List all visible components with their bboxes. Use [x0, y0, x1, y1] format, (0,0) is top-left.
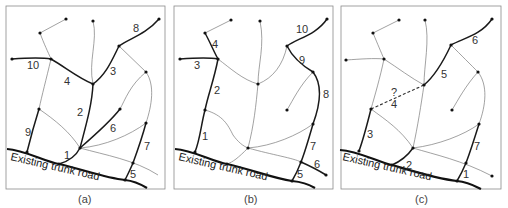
panel-a: 1 2 3 4 5 6 7 8 9 10 Existing trunk road… — [6, 6, 165, 205]
segment-label: 1 — [64, 149, 70, 161]
segment-label: 3 — [367, 128, 373, 140]
panel-c: 1 2 3 ? 4 5 6 7 Existing trunk road (c) — [340, 6, 501, 205]
segment-label: 5 — [297, 168, 303, 180]
segment-label: 1 — [463, 168, 469, 180]
panel-caption: (a) — [78, 193, 91, 205]
segment-label: 3 — [194, 59, 200, 71]
segment-label: 7 — [474, 140, 480, 152]
segment-label: 7 — [144, 140, 150, 152]
segment-label: 4 — [64, 75, 70, 87]
segment-label: 9 — [299, 54, 305, 66]
segment-label: 5 — [441, 68, 447, 80]
panel-caption: (c) — [415, 193, 428, 205]
segment-label: ? — [391, 86, 397, 98]
segment-label: 10 — [27, 59, 39, 71]
segment-label: 4 — [391, 98, 397, 110]
segment-label: 6 — [472, 34, 478, 46]
segment-label: 3 — [110, 65, 116, 77]
segment-label: 8 — [133, 22, 139, 34]
panel-b: 1 2 3 4 5 6 7 8 9 10 Existing trunk road… — [174, 6, 333, 205]
panel-caption: (b) — [244, 193, 257, 205]
segment-label: 5 — [130, 168, 136, 180]
segment-label: 10 — [296, 23, 308, 35]
segment-label: 1 — [202, 130, 208, 142]
segment-label: 2 — [214, 84, 220, 96]
segment-label: 8 — [323, 88, 329, 100]
segment-label: 7 — [310, 140, 316, 152]
road-network-diagram: 1 2 3 4 5 6 7 8 9 10 Existing trunk road… — [0, 0, 508, 208]
segment-label: 6 — [110, 122, 116, 134]
segment-label: 9 — [25, 126, 31, 138]
segment-label: 2 — [77, 106, 83, 118]
segment-label: 4 — [212, 38, 218, 50]
segment-label: 6 — [314, 158, 320, 170]
